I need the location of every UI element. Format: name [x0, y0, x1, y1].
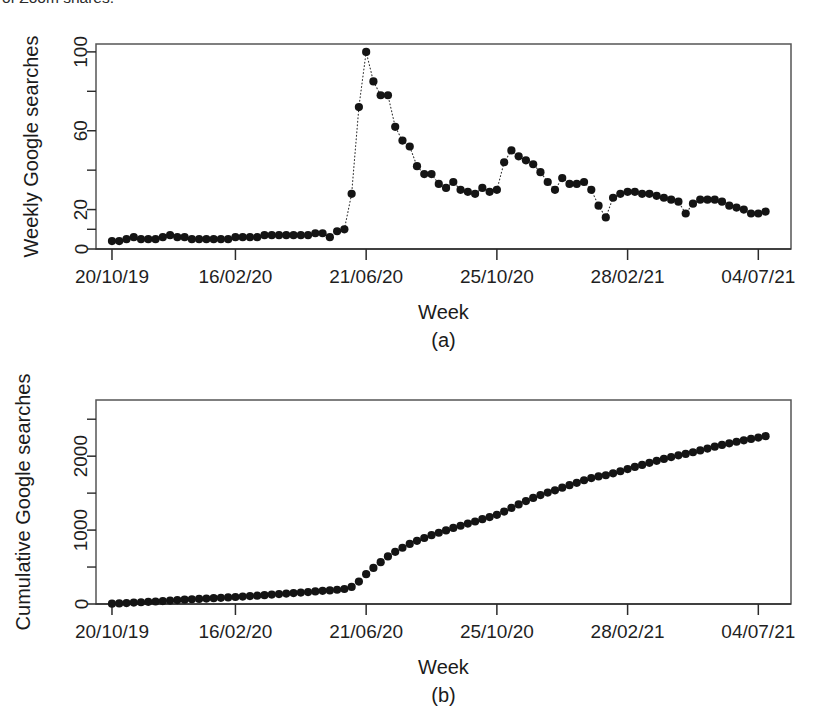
data-point: [624, 188, 632, 196]
data-point: [406, 142, 414, 150]
data-point: [515, 500, 523, 508]
data-point: [653, 457, 661, 465]
weekly-searches-chart: 0206010020/10/1916/02/2021/06/2025/10/20…: [0, 14, 823, 359]
data-point: [653, 192, 661, 200]
data-point: [645, 190, 653, 198]
x-tick-label: 20/10/19: [75, 621, 149, 642]
data-point: [667, 453, 675, 461]
data-point: [703, 196, 711, 204]
data-point: [725, 439, 733, 447]
chart-panel-a: 0206010020/10/1916/02/2021/06/2025/10/20…: [0, 14, 823, 359]
data-point: [594, 202, 602, 210]
data-point: [761, 432, 769, 440]
data-point: [297, 588, 305, 596]
data-point: [115, 237, 123, 245]
data-point: [239, 233, 247, 241]
x-tick-label: 28/02/21: [591, 266, 665, 287]
data-point: [660, 455, 668, 463]
data-point: [108, 237, 116, 245]
data-point: [275, 231, 283, 239]
data-point: [282, 589, 290, 597]
data-point: [231, 233, 239, 241]
data-point: [362, 48, 370, 56]
data-point: [478, 515, 486, 523]
data-point: [202, 235, 210, 243]
data-point: [137, 598, 145, 606]
data-point: [616, 190, 624, 198]
data-point: [159, 597, 167, 605]
data-point: [565, 180, 573, 188]
data-point: [689, 200, 697, 208]
data-point: [122, 599, 130, 607]
data-point: [529, 494, 537, 502]
data-point: [391, 123, 399, 131]
data-point: [318, 229, 326, 237]
data-point: [130, 233, 138, 241]
data-point: [732, 438, 740, 446]
data-point: [718, 441, 726, 449]
data-point: [210, 235, 218, 243]
x-tick-label: 28/02/21: [591, 621, 665, 642]
x-tick-label: 16/02/20: [198, 266, 272, 287]
data-point: [435, 180, 443, 188]
data-point: [500, 158, 508, 166]
data-point: [413, 162, 421, 170]
data-point: [580, 178, 588, 186]
data-point: [348, 190, 356, 198]
x-tick-label: 25/10/20: [460, 621, 534, 642]
data-point: [377, 91, 385, 99]
series-points: [108, 432, 770, 608]
data-point: [616, 467, 624, 475]
data-point: [536, 168, 544, 176]
data-point: [522, 497, 530, 505]
series-connector: [112, 52, 766, 241]
data-point: [130, 599, 138, 607]
data-point: [536, 491, 544, 499]
data-point: [435, 529, 443, 537]
data-point: [594, 472, 602, 480]
data-point: [173, 596, 181, 604]
data-point: [115, 599, 123, 607]
data-point: [304, 588, 312, 596]
data-point: [587, 186, 595, 194]
data-point: [355, 103, 363, 111]
data-point: [682, 450, 690, 458]
data-point: [166, 231, 174, 239]
data-point: [188, 595, 196, 603]
data-point: [507, 146, 515, 154]
data-point: [151, 235, 159, 243]
data-point: [384, 91, 392, 99]
data-point: [696, 446, 704, 454]
panel-caption: (a): [431, 329, 455, 351]
data-point: [217, 594, 225, 602]
data-point: [406, 540, 414, 548]
data-point: [449, 524, 457, 532]
data-point: [754, 434, 762, 442]
x-axis-title: Week: [418, 656, 470, 678]
x-tick-label: 21/06/20: [329, 266, 403, 287]
data-point: [711, 196, 719, 204]
x-tick-label: 04/07/21: [721, 621, 795, 642]
data-point: [609, 194, 617, 202]
data-point: [740, 205, 748, 213]
data-point: [761, 207, 769, 215]
data-point: [318, 587, 326, 595]
data-point: [529, 160, 537, 168]
data-point: [159, 233, 167, 241]
data-point: [573, 180, 581, 188]
data-point: [638, 461, 646, 469]
data-point: [471, 190, 479, 198]
data-point: [558, 174, 566, 182]
data-point: [333, 586, 341, 594]
data-point: [398, 544, 406, 552]
data-point: [718, 198, 726, 206]
data-point: [732, 204, 740, 212]
plot-box: [96, 400, 791, 604]
data-point: [420, 534, 428, 542]
data-point: [624, 465, 632, 473]
data-point: [674, 451, 682, 459]
data-point: [674, 198, 682, 206]
data-point: [195, 235, 203, 243]
data-point: [660, 194, 668, 202]
x-tick-label: 20/10/19: [75, 266, 149, 287]
